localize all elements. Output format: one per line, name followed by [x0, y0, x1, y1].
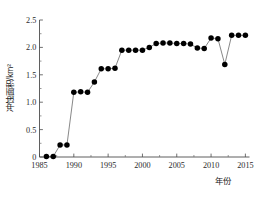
data-point-marker [153, 41, 159, 47]
data-point-marker [85, 90, 91, 96]
data-point-marker [229, 33, 235, 39]
data-point-marker [99, 66, 105, 72]
data-point-marker [215, 36, 221, 42]
data-point-marker [208, 35, 214, 41]
x-tick-label: 1990 [66, 161, 82, 170]
y-axis-title: 冲蚀面积/km² [5, 64, 15, 112]
data-point-marker [64, 142, 70, 148]
data-point-marker [119, 47, 125, 53]
x-tick-label: 1985 [31, 161, 47, 170]
data-point-marker [222, 62, 228, 68]
data-point-marker [133, 47, 139, 53]
y-tick-label: 0.5 [26, 126, 36, 135]
data-point-marker [140, 47, 146, 53]
y-tick-label: 1.0 [26, 98, 36, 107]
data-point-marker [126, 47, 132, 53]
x-axis-title: 年份 [215, 176, 232, 186]
data-point-marker [167, 40, 173, 46]
data-point-marker [201, 46, 207, 52]
data-point-marker [44, 154, 50, 160]
y-tick-label: 1.5 [26, 71, 36, 80]
chart-ticks [40, 20, 246, 157]
data-point-marker [71, 90, 77, 96]
y-tick-label: 2.0 [26, 43, 36, 52]
data-point-marker [92, 79, 98, 85]
data-point-marker [236, 33, 242, 39]
series-connector-line [46, 35, 245, 156]
erosion-area-line-chart: 00.51.01.52.02.5198519901995200020052010… [0, 0, 260, 207]
x-tick-label: 2015 [237, 161, 253, 170]
data-point-marker [160, 40, 166, 46]
data-point-marker [147, 45, 153, 51]
data-point-marker [243, 33, 249, 39]
data-point-marker [195, 45, 201, 51]
x-tick-label: 2005 [169, 161, 185, 170]
x-tick-label: 2010 [203, 161, 219, 170]
x-tick-label: 2000 [134, 161, 150, 170]
data-series [44, 33, 249, 160]
data-point-marker [181, 41, 187, 47]
data-point-marker [112, 65, 118, 71]
figure-container: 00.51.01.52.02.5198519901995200020052010… [0, 0, 260, 207]
data-point-marker [57, 142, 63, 148]
data-point-marker [105, 66, 111, 72]
y-tick-label: 2.5 [26, 16, 36, 25]
data-point-marker [174, 41, 180, 47]
data-point-marker [188, 41, 194, 47]
x-tick-label: 1995 [100, 161, 116, 170]
data-point-marker [50, 154, 56, 160]
data-point-marker [78, 89, 84, 95]
